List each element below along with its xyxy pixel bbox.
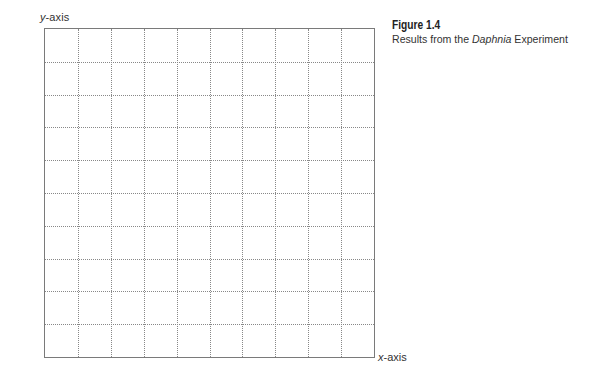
y-axis-label-suffix: -axis — [46, 11, 70, 23]
horizontal-gridline — [45, 62, 374, 63]
figure-caption: Figure 1.4 Results from the Daphnia Expe… — [392, 18, 583, 46]
y-axis-label: y-axis — [40, 11, 69, 23]
subtitle-text-after: Experiment — [511, 33, 567, 45]
horizontal-gridline — [45, 291, 374, 292]
horizontal-gridline — [45, 193, 374, 194]
horizontal-gridline — [45, 324, 374, 325]
subtitle-text-before: Results from the — [392, 33, 472, 45]
horizontal-gridline — [45, 95, 374, 96]
horizontal-gridline — [45, 160, 374, 161]
x-axis-label-suffix: -axis — [384, 351, 407, 363]
horizontal-gridline — [45, 226, 374, 227]
figure-title: Figure 1.4 — [392, 18, 554, 32]
subtitle-species-name: Daphnia — [472, 33, 511, 45]
x-axis-label: x-axis — [378, 351, 407, 363]
horizontal-gridline — [45, 127, 374, 128]
figure-subtitle: Results from the Daphnia Experiment — [392, 32, 568, 46]
horizontal-gridline — [45, 259, 374, 260]
graph-grid — [44, 28, 375, 358]
